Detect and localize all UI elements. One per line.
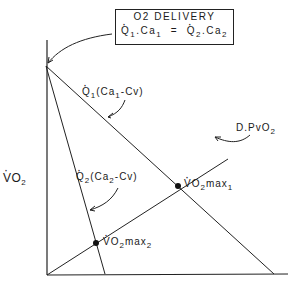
box-equation: Q1.Ca1 = Q2.Ca2 xyxy=(116,24,233,42)
o2-delivery-box: O2 DELIVERY Q1.Ca1 = Q2.Ca2 xyxy=(115,9,234,45)
q1-line-label: Q1(Ca1-Cv) xyxy=(82,86,144,100)
diffusion-line-label: D.PvO2 xyxy=(236,122,276,136)
y-axis-label: VO2 xyxy=(3,171,26,187)
box-title: O2 DELIVERY xyxy=(116,10,233,24)
vo2max1-label: VO2max1 xyxy=(184,178,233,192)
q2-line-label: Q2(Ca2-Cv) xyxy=(76,171,138,185)
box-arrow-icon xyxy=(48,34,112,63)
vo2max1-point xyxy=(175,183,181,189)
vo2max2-point xyxy=(93,240,99,246)
vo2max2-label: VO2max2 xyxy=(103,236,152,250)
x-axis xyxy=(47,274,288,275)
